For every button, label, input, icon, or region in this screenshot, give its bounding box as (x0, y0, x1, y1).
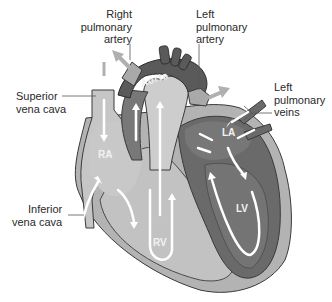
label-superior-vena-cava: Superior vena cava (16, 90, 76, 115)
label-line: pulmonary (274, 94, 332, 107)
label-line: Right (70, 8, 132, 21)
heart-illustration: Aorta (0, 0, 332, 302)
chamber-label-rv: RV (153, 237, 167, 248)
label-line: pulmonary (196, 21, 266, 34)
label-inferior-vena-cava: Inferior vena cava (12, 203, 74, 228)
label-line: Left (274, 81, 332, 94)
label-line: pulmonary (70, 21, 132, 34)
label-line: veins (274, 106, 332, 119)
label-line: Left (196, 8, 266, 21)
label-line: vena cava (12, 216, 74, 229)
label-left-pulmonary-artery: Left pulmonary artery (196, 8, 266, 46)
heart-diagram: Aorta (0, 0, 332, 302)
label-line: artery (70, 33, 132, 46)
label-left-pulmonary-veins: Left pulmonary veins (274, 81, 332, 119)
chamber-label-lv: LV (236, 203, 248, 214)
chamber-label-la: LA (222, 127, 235, 138)
label-line: Inferior (12, 203, 74, 216)
label-line: Superior (16, 90, 76, 103)
arrow-left-pulmonary-out (208, 92, 222, 98)
label-right-pulmonary-artery: Right pulmonary artery (70, 8, 132, 46)
label-line: vena cava (16, 103, 76, 116)
aorta-branch-1 (159, 45, 170, 64)
chamber-label-ra: RA (98, 149, 112, 160)
label-line: artery (196, 33, 266, 46)
left-pulmonary-artery (188, 88, 210, 106)
